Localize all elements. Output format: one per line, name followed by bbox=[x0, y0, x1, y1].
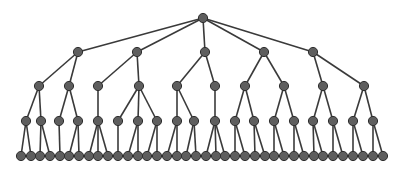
tree-edge bbox=[98, 52, 137, 86]
tree-edge bbox=[205, 52, 215, 86]
tree-edge bbox=[235, 86, 245, 121]
tree-leaf-node bbox=[358, 151, 367, 160]
tree-edge bbox=[245, 52, 264, 86]
tree-edge bbox=[59, 86, 69, 121]
tree-leaf-node bbox=[84, 151, 93, 160]
tree-edge bbox=[235, 121, 245, 156]
tree-leaf-node bbox=[35, 151, 44, 160]
tree-edge bbox=[294, 121, 304, 156]
tree-node bbox=[318, 81, 327, 90]
tree-edge bbox=[203, 18, 313, 52]
tree-edge bbox=[59, 121, 60, 156]
tree-node bbox=[172, 116, 181, 125]
tree-leaf-node bbox=[230, 151, 239, 160]
tree-leaf-node bbox=[26, 151, 35, 160]
tree-edge bbox=[139, 86, 157, 121]
tree-edge bbox=[364, 86, 373, 121]
tree-leaf-node bbox=[368, 151, 377, 160]
tree-leaf-node bbox=[220, 151, 229, 160]
tree-edge bbox=[167, 121, 177, 156]
tree-leaf-node bbox=[64, 151, 73, 160]
tree-edge bbox=[147, 121, 157, 156]
tree-edge bbox=[69, 121, 78, 156]
tree-node bbox=[359, 81, 368, 90]
tree-edge bbox=[323, 86, 333, 121]
tree-edge bbox=[186, 121, 194, 156]
tree-edge bbox=[98, 121, 108, 156]
tree-edge bbox=[78, 121, 79, 156]
tree-edges bbox=[21, 18, 383, 156]
tree-edge bbox=[39, 86, 41, 121]
tree-node bbox=[348, 116, 357, 125]
tree-node bbox=[308, 47, 317, 56]
tree-node bbox=[259, 47, 268, 56]
tree-leaf-node bbox=[55, 151, 64, 160]
tree-node bbox=[269, 116, 278, 125]
tree-edge bbox=[245, 86, 254, 121]
tree-edge bbox=[264, 52, 284, 86]
tree-node bbox=[36, 116, 45, 125]
tree-leaf-node bbox=[289, 151, 298, 160]
tree-edge bbox=[41, 121, 50, 156]
tree-node bbox=[54, 116, 63, 125]
tree-edge bbox=[40, 121, 41, 156]
tree-node bbox=[210, 116, 219, 125]
tree-node bbox=[249, 116, 258, 125]
tree-edge bbox=[284, 86, 294, 121]
tree-leaf-node bbox=[16, 151, 25, 160]
tree-edge bbox=[373, 121, 383, 156]
tree-edge bbox=[177, 52, 205, 86]
tree-leaf-node bbox=[260, 151, 269, 160]
tree-edge bbox=[203, 18, 205, 52]
tree-edge bbox=[69, 52, 78, 86]
tree-node bbox=[73, 116, 82, 125]
tree-edge bbox=[69, 86, 78, 121]
tree-leaf-node bbox=[250, 151, 259, 160]
tree-leaf-node bbox=[45, 151, 54, 160]
tree-leaf-node bbox=[211, 151, 220, 160]
tree-node bbox=[132, 47, 141, 56]
tree-node bbox=[21, 116, 30, 125]
tree-leaf-node bbox=[299, 151, 308, 160]
tree-edge bbox=[137, 18, 203, 52]
tree-node bbox=[133, 116, 142, 125]
tree-node bbox=[279, 81, 288, 90]
tree-diagram bbox=[0, 0, 402, 171]
tree-leaf-node bbox=[328, 151, 337, 160]
tree-edge bbox=[313, 86, 323, 121]
tree-edge bbox=[78, 18, 203, 52]
tree-leaf-node bbox=[318, 151, 327, 160]
tree-node bbox=[93, 81, 102, 90]
tree-leaf-node bbox=[201, 151, 210, 160]
tree-node bbox=[172, 81, 181, 90]
tree-node bbox=[152, 116, 161, 125]
tree-node bbox=[93, 116, 102, 125]
tree-leaf-node bbox=[162, 151, 171, 160]
tree-edge bbox=[194, 121, 196, 156]
tree-edge bbox=[333, 121, 343, 156]
tree-edge bbox=[21, 121, 26, 156]
tree-node bbox=[289, 116, 298, 125]
tree-leaf-node bbox=[152, 151, 161, 160]
tree-node bbox=[240, 81, 249, 90]
tree-edge bbox=[137, 52, 139, 86]
tree-edge bbox=[274, 86, 284, 121]
tree-node bbox=[368, 116, 377, 125]
tree-edge bbox=[353, 86, 364, 121]
tree-leaf-node bbox=[181, 151, 190, 160]
tree-node bbox=[230, 116, 239, 125]
tree-nodes bbox=[16, 13, 387, 160]
tree-leaf-node bbox=[348, 151, 357, 160]
tree-edge bbox=[39, 52, 78, 86]
tree-leaf-node bbox=[172, 151, 181, 160]
tree-edge bbox=[89, 121, 98, 156]
tree-node bbox=[113, 116, 122, 125]
tree-edge bbox=[177, 86, 194, 121]
tree-leaf-node bbox=[191, 151, 200, 160]
tree-edge bbox=[128, 121, 138, 156]
tree-node bbox=[210, 81, 219, 90]
tree-node bbox=[328, 116, 337, 125]
tree-leaf-node bbox=[378, 151, 387, 160]
tree-leaf-node bbox=[93, 151, 102, 160]
tree-node bbox=[308, 116, 317, 125]
